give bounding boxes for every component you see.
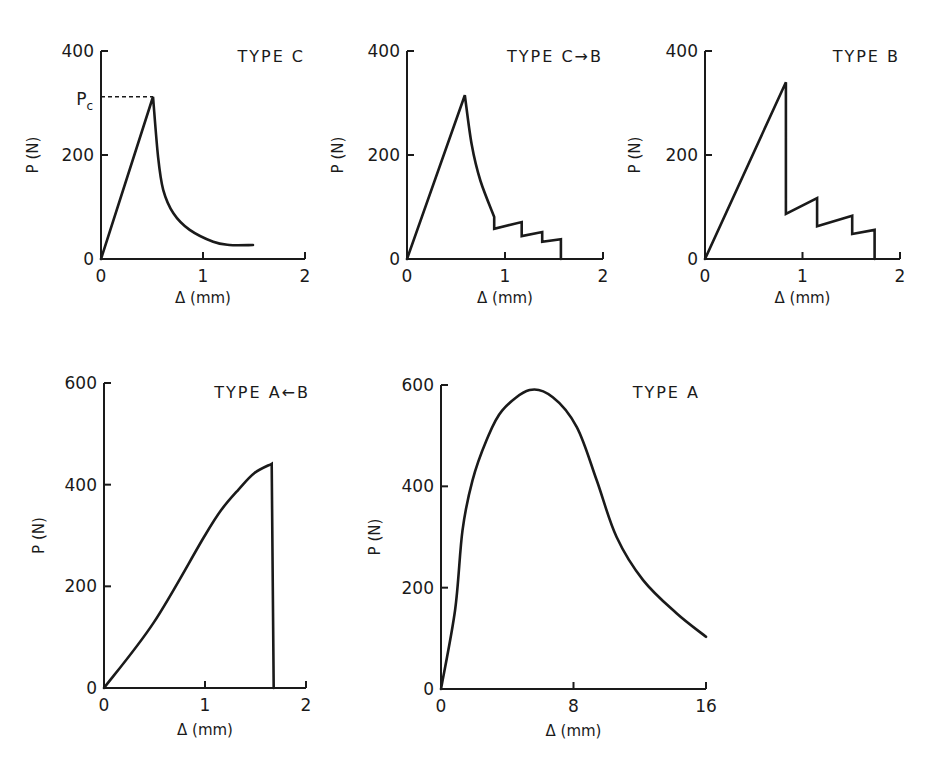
chart-title: TYPE A — [632, 383, 700, 402]
y-tick-label: 400 — [368, 41, 400, 61]
y-axis-label: P (N) — [24, 137, 42, 174]
series-line-type-a-b — [104, 464, 274, 688]
series-line-type-b — [705, 82, 875, 259]
x-tick-label: 1 — [200, 695, 211, 715]
x-tick-label: 1 — [198, 266, 209, 286]
chart-type-a: 02004006000816Δ (mm)P (N)TYPE A — [366, 375, 717, 740]
y-tick-label: 400 — [666, 41, 698, 61]
x-tick-label: 2 — [895, 266, 906, 286]
series-line-type-c — [101, 97, 253, 259]
y-axis-label: P (N) — [366, 519, 384, 556]
chart-type-a-b: 0200400600012Δ (mm)P (N)TYPE A←B — [30, 373, 311, 739]
x-tick-label: 8 — [568, 696, 579, 716]
series-line-type-c-b — [407, 95, 561, 259]
y-tick-label: 600 — [402, 375, 434, 395]
y-tick-label: 0 — [389, 249, 400, 269]
x-tick-label: 2 — [300, 266, 311, 286]
pc-label: Pc — [76, 89, 93, 113]
chart-type-c-b: 0200400012Δ (mm)P (N)TYPE C→B — [329, 41, 608, 307]
y-tick-label: 600 — [65, 373, 97, 393]
chart-title: TYPE C→B — [506, 47, 603, 66]
x-axis-label: Δ (mm) — [477, 289, 533, 307]
x-axis-label: Δ (mm) — [775, 289, 831, 307]
chart-type-c: 0200400012Δ (mm)P (N)TYPE CPc — [24, 41, 310, 307]
y-axis-label: P (N) — [626, 137, 644, 174]
y-tick-label: 0 — [83, 249, 94, 269]
chart-title: TYPE A←B — [213, 383, 310, 402]
y-tick-label: 0 — [423, 679, 434, 699]
y-tick-label: 0 — [687, 249, 698, 269]
x-tick-label: 0 — [402, 266, 413, 286]
x-axis-label: Δ (mm) — [175, 289, 231, 307]
y-tick-label: 200 — [368, 145, 400, 165]
y-tick-label: 0 — [86, 678, 97, 698]
x-tick-label: 0 — [96, 266, 107, 286]
x-tick-label: 2 — [301, 695, 312, 715]
y-tick-label: 200 — [402, 578, 434, 598]
figure: 0200400012Δ (mm)P (N)TYPE CPc0200400012Δ… — [0, 0, 928, 768]
x-tick-label: 0 — [99, 695, 110, 715]
chart-title: TYPE B — [832, 47, 900, 66]
x-axis-label: Δ (mm) — [546, 722, 602, 740]
chart-title: TYPE C — [236, 47, 305, 66]
x-tick-label: 16 — [695, 696, 717, 716]
x-tick-label: 0 — [436, 696, 447, 716]
y-tick-label: 200 — [65, 576, 97, 596]
y-tick-label: 400 — [62, 41, 94, 61]
y-axis-label: P (N) — [30, 517, 48, 554]
x-tick-label: 2 — [598, 266, 609, 286]
x-axis-label: Δ (mm) — [177, 721, 233, 739]
y-tick-label: 400 — [402, 476, 434, 496]
x-tick-label: 1 — [797, 266, 808, 286]
x-tick-label: 1 — [500, 266, 511, 286]
y-tick-label: 200 — [666, 145, 698, 165]
series-line-type-a — [441, 389, 706, 689]
y-tick-label: 400 — [65, 475, 97, 495]
y-axis-label: P (N) — [329, 137, 347, 174]
chart-type-b: 0200400012Δ (mm)P (N)TYPE B — [626, 41, 905, 307]
x-tick-label: 0 — [700, 266, 711, 286]
y-tick-label: 200 — [62, 145, 94, 165]
